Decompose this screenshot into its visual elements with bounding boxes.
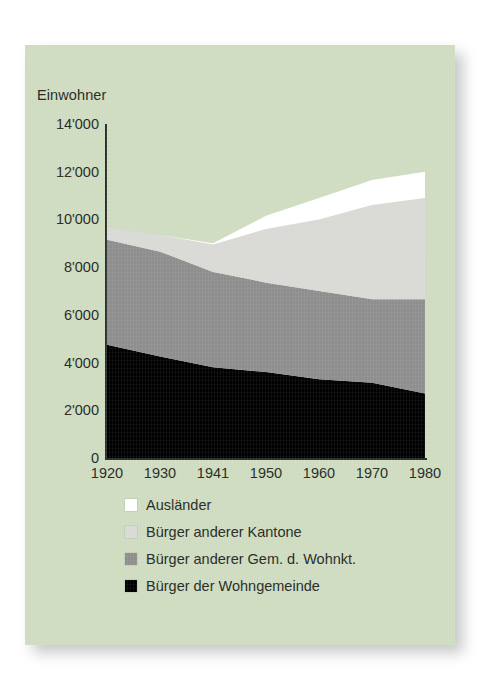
chart-legend: AusländerBürger anderer KantoneBürger an…	[125, 497, 356, 594]
y-tick-6000: 6'000	[35, 307, 99, 323]
chart-panel: Einwohner 14'00012'00010'0008'0006'0004'…	[25, 45, 455, 645]
legend-label-3: Bürger der Wohngemeinde	[146, 578, 320, 594]
y-tick-4000: 4'000	[35, 355, 99, 371]
x-tick-1920: 1920	[91, 465, 123, 481]
legend-item-0: Ausländer	[125, 497, 356, 513]
legend-label-1: Bürger anderer Kantone	[146, 524, 302, 540]
y-tick-2000: 2'000	[35, 402, 99, 418]
y-tick-14000: 14'000	[35, 116, 99, 132]
legend-label-2: Bürger anderer Gem. d. Wohnkt.	[146, 551, 356, 567]
legend-swatch-icon-3	[125, 580, 137, 592]
x-tick-1960: 1960	[303, 465, 335, 481]
stacked-area-plot	[107, 124, 425, 458]
legend-item-1: Bürger anderer Kantone	[125, 524, 356, 540]
y-tick-10000: 10'000	[35, 211, 99, 227]
legend-swatch-icon-1	[125, 526, 137, 538]
y-axis-tick-labels: 14'00012'00010'0008'0006'0004'0002'0000	[25, 45, 99, 645]
legend-swatch-icon-0	[125, 499, 137, 511]
y-tick-12000: 12'000	[35, 164, 99, 180]
legend-item-3: Bürger der Wohngemeinde	[125, 578, 356, 594]
x-tick-1941: 1941	[197, 465, 229, 481]
x-tick-1930: 1930	[144, 465, 176, 481]
x-tick-1980: 1980	[409, 465, 441, 481]
area-chart-svg	[107, 124, 425, 458]
legend-item-2: Bürger anderer Gem. d. Wohnkt.	[125, 551, 356, 567]
x-tick-1970: 1970	[356, 465, 388, 481]
x-axis-line	[105, 458, 427, 460]
y-axis-line	[105, 124, 107, 460]
legend-swatch-icon-2	[125, 553, 137, 565]
legend-label-0: Ausländer	[146, 497, 211, 513]
x-tick-1950: 1950	[250, 465, 282, 481]
page-root: Einwohner 14'00012'00010'0008'0006'0004'…	[0, 0, 490, 690]
y-tick-0: 0	[35, 450, 99, 466]
y-tick-8000: 8'000	[35, 259, 99, 275]
